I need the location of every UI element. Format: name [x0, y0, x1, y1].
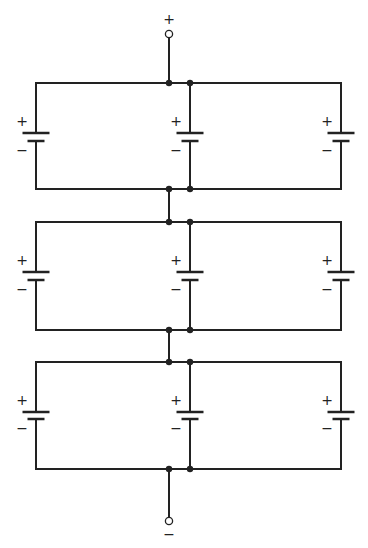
positive-terminal: [165, 30, 172, 37]
junction-node: [187, 466, 193, 472]
battery-minus-label: −: [16, 142, 28, 158]
positive-terminal-label: +: [163, 11, 175, 27]
battery-minus-label: −: [321, 420, 333, 436]
battery-plus-label: +: [321, 113, 333, 129]
battery-plus-label: +: [170, 252, 182, 268]
battery-plus-label: +: [16, 392, 28, 408]
junction-node: [187, 219, 193, 225]
negative-terminal-label: −: [163, 526, 175, 542]
battery-minus-label: −: [170, 420, 182, 436]
junction-node: [187, 186, 193, 192]
battery-minus-label: −: [170, 142, 182, 158]
junction-node: [187, 359, 193, 365]
battery-plus-label: +: [170, 392, 182, 408]
battery-plus-label: +: [321, 392, 333, 408]
battery-minus-label: −: [170, 281, 182, 297]
battery-minus-label: −: [321, 142, 333, 158]
junction-node: [166, 466, 172, 472]
junction-node: [166, 359, 172, 365]
battery-plus-label: +: [16, 113, 28, 129]
circuit-diagram: +−+−+−+−+−+−+−+−+−+−: [0, 0, 368, 548]
junction-node: [187, 80, 193, 86]
battery-minus-label: −: [321, 281, 333, 297]
junction-node: [187, 327, 193, 333]
battery-plus-label: +: [321, 252, 333, 268]
junction-node: [166, 327, 172, 333]
junction-node: [166, 219, 172, 225]
battery-plus-label: +: [16, 252, 28, 268]
battery-minus-label: −: [16, 420, 28, 436]
junction-node: [166, 80, 172, 86]
battery-plus-label: +: [170, 113, 182, 129]
negative-terminal: [165, 517, 172, 524]
battery-minus-label: −: [16, 281, 28, 297]
junction-node: [166, 186, 172, 192]
